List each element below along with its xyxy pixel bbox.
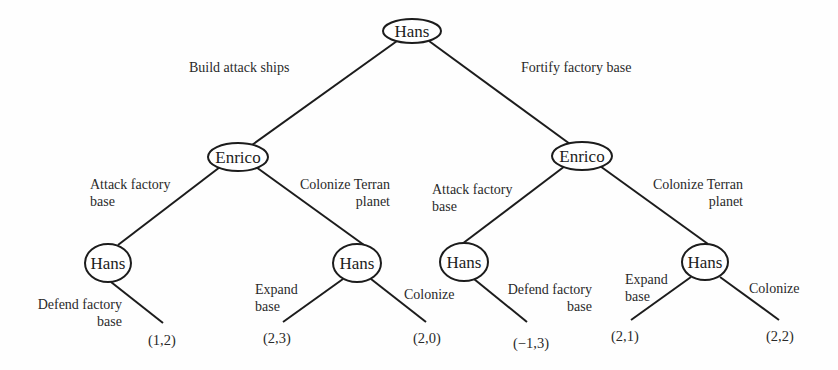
label-line: Colonize Terran: [636, 176, 743, 193]
node-label: Hans: [688, 253, 723, 272]
edge-label-lr-expand: Expand base: [255, 281, 298, 315]
label-line: Expand: [625, 271, 668, 288]
edge-label-lr-colonize: Colonize: [404, 286, 455, 303]
node-root-hans: Hans: [383, 19, 441, 43]
label-line: Attack factory: [90, 176, 170, 193]
node-enrico-left: Enrico: [208, 143, 268, 171]
label-line: base: [494, 298, 592, 315]
label-line: planet: [283, 193, 390, 210]
edge-label-left-colonize-terran: Colonize Terran planet: [283, 176, 390, 210]
label-line: Colonize Terran: [283, 176, 390, 193]
label-line: base: [432, 198, 512, 215]
edge-fortify-factory-base: [429, 41, 570, 144]
edge-label-ll-defend: Defend factory base: [0, 296, 122, 330]
node-label: Hans: [447, 253, 482, 272]
label-line: base: [255, 298, 298, 315]
edge-label-rr-colonize: Colonize: [749, 280, 800, 297]
payoff-rr-colonize: (2,2): [766, 328, 794, 345]
node-label: Hans: [91, 254, 126, 273]
label-line: Defend factory: [0, 296, 122, 313]
label-line: planet: [636, 193, 743, 210]
edge-label-rl-defend: Defend factory base: [494, 281, 592, 315]
edge-label-right-attack-factory: Attack factory base: [432, 181, 512, 215]
node-enrico-right: Enrico: [552, 142, 612, 170]
edge-build-attack-ships: [252, 41, 397, 145]
edge-label-rr-expand: Expand base: [625, 271, 668, 305]
edge-label-fortify-factory-base: Fortify factory base: [521, 59, 631, 76]
label-line: base: [90, 193, 170, 210]
label-line: Defend factory: [494, 281, 592, 298]
node-label: Hans: [395, 22, 430, 41]
label-line: base: [0, 313, 122, 330]
node-hans-lr: Hans: [333, 244, 381, 282]
payoff-lr-expand: (2,3): [263, 330, 291, 347]
game-tree-diagram: Hans Enrico Enrico Hans Hans Hans Hans B…: [0, 0, 838, 370]
node-label: Enrico: [215, 148, 260, 167]
node-label: Enrico: [559, 147, 604, 166]
node-hans-rl: Hans: [440, 243, 488, 281]
label-line: Expand: [255, 281, 298, 298]
node-hans-ll: Hans: [85, 244, 131, 282]
payoff-rr-expand: (2,1): [611, 328, 639, 345]
label-line: Attack factory: [432, 181, 512, 198]
payoff-rl-defend: (−1,3): [513, 335, 549, 352]
payoff-ll-defend: (1,2): [148, 332, 176, 349]
edge-label-right-colonize-terran: Colonize Terran planet: [636, 176, 743, 210]
node-hans-rr: Hans: [682, 244, 728, 280]
label-line: base: [625, 288, 668, 305]
edge-label-left-attack-factory: Attack factory base: [90, 176, 170, 210]
node-label: Hans: [340, 254, 375, 273]
payoff-lr-colonize: (2,0): [413, 330, 441, 347]
edge-label-build-attack-ships: Build attack ships: [189, 59, 289, 76]
